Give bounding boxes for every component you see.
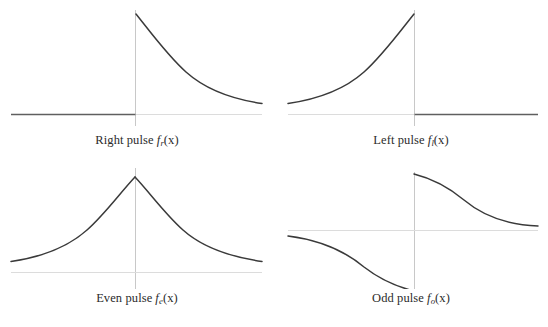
function-argument: (x) xyxy=(163,291,178,305)
function-base: f xyxy=(427,291,431,305)
panel-left-pulse: Left pulsefl(x) xyxy=(274,0,548,163)
curve-even-left-branch xyxy=(11,177,135,262)
panel-right-pulse: Right pulsefr(x) xyxy=(0,0,274,163)
function-argument: (x) xyxy=(434,133,449,147)
plot-odd-pulse xyxy=(274,164,548,289)
caption-right-pulse: Right pulsefr(x) xyxy=(0,133,274,148)
function-argument: (x) xyxy=(164,133,179,147)
caption-label: Left pulse xyxy=(373,133,424,147)
function-argument: (x) xyxy=(435,291,450,305)
caption-function: fo(x) xyxy=(427,291,450,305)
caption-label: Right pulse xyxy=(95,133,153,147)
plot-even-pulse xyxy=(0,164,274,289)
curve-exponential-decay xyxy=(136,14,262,104)
caption-even-pulse: Even pulsefe(x) xyxy=(0,291,274,306)
caption-odd-pulse: Odd pulsefo(x) xyxy=(274,291,548,306)
caption-label: Odd pulse xyxy=(372,291,424,305)
caption-label: Even pulse xyxy=(96,291,152,305)
curve-exponential-rise xyxy=(288,14,414,104)
curve-odd-negative-branch xyxy=(288,236,414,289)
pulse-functions-figure: Right pulsefr(x) Left pulsefl(x) xyxy=(0,0,548,327)
panel-odd-pulse: Odd pulsefo(x) xyxy=(274,164,548,327)
panel-even-pulse: Even pulsefe(x) xyxy=(0,164,274,327)
caption-function: fl(x) xyxy=(428,133,449,147)
caption-left-pulse: Left pulsefl(x) xyxy=(274,133,548,148)
curve-even-right-branch xyxy=(135,177,262,262)
caption-function: fr(x) xyxy=(157,133,179,147)
curve-odd-positive-branch xyxy=(414,174,538,226)
caption-function: fe(x) xyxy=(155,291,178,305)
plot-left-pulse xyxy=(274,0,548,130)
plot-right-pulse xyxy=(0,0,274,130)
